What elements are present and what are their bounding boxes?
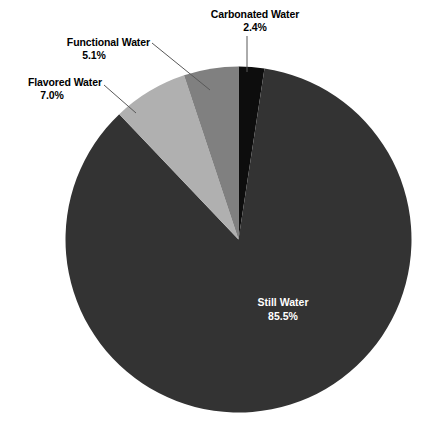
- slice-label-functional-water: Functional Water 5.1%: [46, 36, 150, 62]
- slice-label-carbonated-water-percent: 2.4%: [192, 21, 318, 34]
- slice-label-flavored-water: Flavored Water 7.0%: [8, 76, 102, 102]
- pie-chart-canvas: [0, 0, 429, 429]
- slice-label-functional-water-category: Functional Water: [46, 36, 150, 49]
- slice-label-functional-water-percent: 5.1%: [46, 49, 150, 62]
- pie-slices: [66, 67, 412, 413]
- slice-label-carbonated-water-category: Carbonated Water: [192, 8, 318, 21]
- slice-label-flavored-water-percent: 7.0%: [8, 89, 102, 102]
- slice-label-still-water: Still Water 85.5%: [228, 295, 338, 323]
- pie-chart-figure: Carbonated Water 2.4% Functional Water 5…: [0, 0, 429, 429]
- slice-label-carbonated-water: Carbonated Water 2.4%: [192, 8, 318, 34]
- slice-label-still-water-percent: 85.5%: [228, 309, 338, 323]
- leader-line-flavored-water: [104, 85, 136, 113]
- slice-label-still-water-category: Still Water: [228, 295, 338, 309]
- slice-label-flavored-water-category: Flavored Water: [8, 76, 102, 89]
